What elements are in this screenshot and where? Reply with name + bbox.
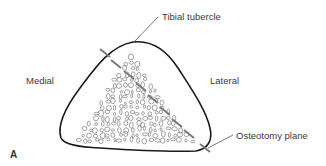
pore — [122, 95, 127, 98]
pore — [107, 123, 110, 126]
pore — [112, 122, 116, 125]
pore — [143, 74, 147, 77]
pore — [143, 117, 148, 121]
pore — [105, 110, 110, 113]
pore — [166, 127, 171, 130]
osteotomy-plane-label: Osteotomy plane — [236, 131, 308, 141]
pore — [137, 118, 141, 121]
pore — [148, 132, 150, 137]
pore — [100, 101, 103, 106]
pore — [120, 105, 124, 109]
pore — [95, 139, 99, 141]
pore — [129, 122, 133, 128]
pore — [88, 140, 92, 143]
pore — [114, 105, 116, 110]
pore — [129, 61, 134, 64]
pore — [130, 111, 135, 114]
pore — [161, 116, 166, 120]
pore — [111, 133, 115, 137]
pore — [128, 54, 133, 60]
pore — [116, 139, 122, 142]
pore — [129, 116, 133, 121]
pore — [107, 94, 111, 100]
pore — [100, 129, 104, 132]
osteotomy-plane-leader — [208, 135, 233, 148]
pore — [153, 123, 156, 127]
pore — [150, 90, 152, 93]
pore — [106, 88, 110, 91]
pore — [148, 112, 152, 116]
pore — [155, 111, 158, 114]
pore — [174, 134, 177, 137]
pore — [123, 78, 127, 81]
pore — [117, 128, 121, 133]
pore — [117, 120, 120, 126]
pore — [106, 100, 111, 103]
tibial-tubercle-label: Tibial tubercle — [162, 12, 221, 22]
pore — [168, 132, 170, 137]
pore — [116, 84, 121, 89]
panel-label: A — [10, 150, 17, 160]
pore — [111, 98, 116, 104]
pore — [111, 129, 114, 131]
pore — [136, 134, 138, 137]
pore — [119, 95, 122, 100]
pore — [144, 105, 146, 108]
pore — [120, 109, 122, 114]
lateral-label: Lateral — [210, 76, 239, 86]
pore — [124, 83, 128, 87]
pore — [144, 77, 147, 80]
pore — [136, 88, 140, 92]
pore — [148, 116, 153, 119]
pore — [155, 139, 160, 143]
pore — [159, 121, 163, 127]
pore — [131, 90, 133, 94]
pore — [155, 116, 157, 121]
pore — [176, 137, 181, 142]
pore — [101, 122, 104, 126]
pore — [160, 128, 162, 132]
pore — [107, 138, 110, 141]
pore — [131, 94, 133, 98]
pore — [120, 91, 123, 93]
pore — [136, 67, 138, 71]
pore — [87, 133, 92, 138]
pore — [82, 126, 87, 130]
pore — [105, 134, 110, 137]
pore — [117, 73, 121, 77]
pore — [167, 116, 171, 119]
pore — [160, 100, 164, 105]
pore — [137, 73, 141, 79]
pore — [102, 117, 104, 122]
pore — [132, 128, 135, 132]
pore — [124, 102, 126, 104]
pore — [152, 105, 157, 111]
pore — [170, 138, 175, 141]
pore — [112, 78, 117, 81]
pore — [125, 112, 129, 116]
pore — [160, 138, 165, 143]
pore — [117, 116, 121, 120]
pore — [93, 134, 98, 137]
tibia-cross-section-figure: Tibial tubercle Medial Lateral Osteotomy… — [0, 0, 326, 166]
pore — [138, 125, 142, 131]
pore — [94, 116, 99, 121]
medial-label: Medial — [26, 76, 54, 86]
pore — [76, 138, 81, 141]
pore — [113, 112, 115, 115]
pore — [113, 117, 116, 122]
pore — [105, 117, 109, 123]
pore — [98, 110, 104, 116]
pore — [149, 84, 153, 90]
pore — [142, 133, 147, 136]
pore — [154, 129, 156, 132]
pore — [84, 139, 87, 143]
pore — [111, 88, 115, 93]
pore — [124, 138, 126, 141]
pore — [154, 89, 156, 92]
pore — [82, 134, 84, 136]
pore — [191, 140, 195, 142]
pore — [100, 107, 104, 110]
pore — [124, 131, 128, 136]
pore — [129, 101, 133, 104]
